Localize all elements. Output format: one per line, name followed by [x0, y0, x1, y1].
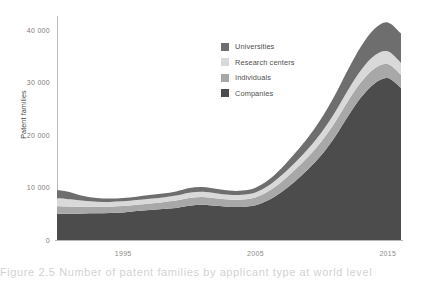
y-axis-tick-label: 40 000 [27, 26, 50, 33]
legend-item-label: Universities [235, 42, 274, 51]
x-axis-tick-label: 1995 [115, 250, 132, 257]
legend-item[interactable]: Companies [221, 87, 295, 100]
y-axis-tick-label: 0 [46, 237, 50, 244]
figure-container: Patent families 010 00020 00030 00040 00… [0, 0, 425, 281]
legend-item[interactable]: Individuals [221, 71, 295, 84]
legend-swatch-icon [221, 43, 229, 51]
legend-swatch-icon [221, 58, 229, 66]
legend-item[interactable]: Research centers [221, 56, 295, 69]
x-axis-tick-label: 2015 [379, 250, 396, 257]
y-axis-ticks: 010 00020 00030 00040 000 [10, 0, 50, 281]
legend-item[interactable]: Universities [221, 40, 295, 53]
y-axis-tick-label: 30 000 [27, 79, 50, 86]
legend-item-label: Individuals [235, 73, 271, 82]
legend-item-label: Research centers [235, 58, 295, 67]
chart-legend: UniversitiesResearch centersIndividualsC… [221, 40, 295, 102]
y-axis-tick-label: 20 000 [27, 131, 50, 138]
legend-swatch-icon [221, 89, 229, 97]
figure-caption: Figure 2.5 Number of patent families by … [0, 266, 425, 281]
y-axis-tick-label: 10 000 [27, 184, 50, 191]
x-axis-tick-label: 2005 [247, 250, 264, 257]
legend-item-label: Companies [235, 89, 273, 98]
legend-swatch-icon [221, 74, 229, 82]
